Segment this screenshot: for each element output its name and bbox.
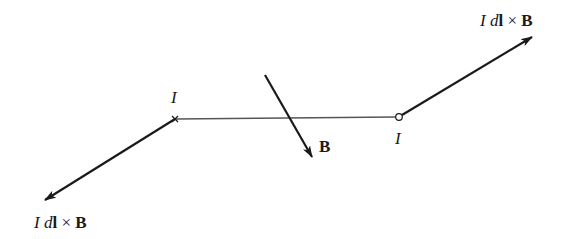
force-label-lower: I dl × B [34, 214, 87, 231]
dot-marker-icon [396, 114, 403, 121]
force-upper-times: × [503, 11, 521, 30]
force-lower-B: B [75, 213, 86, 232]
diagram-svg [0, 0, 577, 239]
current-label-right: I [395, 130, 401, 147]
force-lower-times: × [57, 213, 75, 232]
field-arrow [265, 75, 312, 157]
force-lower-current: I [34, 213, 40, 232]
force-upper-current: I [480, 11, 486, 30]
wire-line [175, 117, 396, 119]
current-label-left: I [171, 89, 177, 106]
force-arrow-upper [402, 37, 532, 115]
diagram-canvas: I I B I dl × B I dl × B [0, 0, 577, 239]
field-label: B [319, 138, 330, 155]
force-label-upper: I dl × B [480, 12, 533, 29]
force-upper-B: B [521, 11, 532, 30]
force-arrow-lower [45, 119, 175, 200]
